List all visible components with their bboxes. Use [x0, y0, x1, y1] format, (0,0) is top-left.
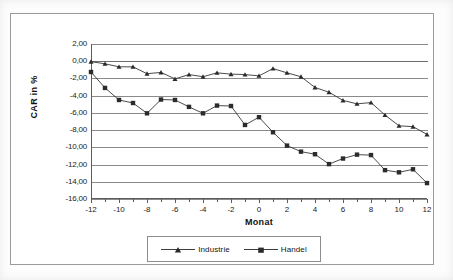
y-tick-label: -16,00 — [41, 195, 87, 203]
data-point-marker — [187, 72, 192, 76]
chart-legend: Industrie Handel — [147, 236, 321, 262]
x-tick-label: -8 — [135, 205, 159, 214]
y-tick-label: 0,00 — [41, 57, 87, 65]
data-point-marker — [215, 103, 219, 107]
data-point-marker — [383, 168, 387, 172]
data-point-marker — [369, 153, 373, 157]
data-point-marker — [145, 111, 149, 115]
data-point-marker — [355, 152, 359, 156]
chart-figure-frame: CAR in % 2,000,00-2,00-4,00-6,00-8,00-10… — [10, 13, 434, 265]
x-tick-label: -4 — [191, 205, 215, 214]
x-tick-label: -6 — [163, 205, 187, 214]
x-tick — [399, 199, 400, 203]
x-tick — [231, 199, 232, 203]
x-tick — [133, 199, 134, 202]
data-point-marker — [271, 130, 275, 134]
x-tick — [343, 199, 344, 203]
legend-entry-handel: Handel — [244, 245, 307, 254]
x-tick — [259, 199, 260, 203]
x-tick — [273, 199, 274, 202]
x-tick — [189, 199, 190, 202]
x-tick — [147, 199, 148, 203]
x-tick-label: -12 — [79, 205, 103, 214]
data-point-marker — [117, 98, 121, 102]
data-point-marker — [103, 86, 107, 90]
x-tick — [287, 199, 288, 203]
x-tick-label: -2 — [219, 205, 243, 214]
x-tick-label: 8 — [359, 205, 383, 214]
data-point-marker — [187, 105, 191, 109]
x-tick — [427, 199, 428, 203]
data-point-marker — [313, 152, 317, 156]
x-tick-label: 6 — [331, 205, 355, 214]
scanned-page: CAR in % 2,000,00-2,00-4,00-6,00-8,00-10… — [0, 0, 453, 280]
y-tick-label: -2,00 — [41, 74, 87, 82]
series-industrie — [89, 59, 430, 136]
data-point-marker — [159, 97, 163, 101]
x-tick — [175, 199, 176, 203]
data-point-marker — [243, 123, 247, 127]
data-point-marker — [341, 98, 346, 102]
x-tick — [161, 199, 162, 202]
y-tick-label: -12,00 — [41, 161, 87, 169]
series-handel — [89, 70, 429, 185]
x-tick — [91, 199, 92, 203]
square-marker-icon — [244, 245, 278, 254]
y-tick-label: -8,00 — [41, 126, 87, 134]
y-axis-tick-labels: 2,000,00-2,00-4,00-6,00-8,00-10,00-12,00… — [37, 44, 87, 199]
data-point-marker — [201, 111, 205, 115]
data-point-marker — [411, 167, 415, 171]
x-tick — [245, 199, 246, 202]
legend-label-industrie: Industrie — [198, 245, 230, 254]
y-tick-label: -4,00 — [41, 92, 87, 100]
data-point-marker — [271, 66, 276, 70]
data-point-marker — [425, 181, 429, 185]
y-tick-label: -14,00 — [41, 178, 87, 186]
triangle-marker-icon — [161, 245, 195, 254]
data-point-marker — [229, 104, 233, 108]
data-point-marker — [341, 156, 345, 160]
x-tick — [119, 199, 120, 203]
x-tick-label: 0 — [247, 205, 271, 214]
data-point-marker — [89, 70, 93, 74]
data-point-marker — [397, 170, 401, 174]
x-tick — [105, 199, 106, 202]
data-point-marker — [89, 59, 94, 63]
data-point-marker — [285, 143, 289, 147]
x-tick-label: 10 — [387, 205, 411, 214]
x-tick — [413, 199, 414, 202]
y-tick-label: 2,00 — [41, 40, 87, 48]
legend-label-handel: Handel — [281, 245, 307, 254]
data-point-marker — [131, 101, 135, 105]
x-tick — [329, 199, 330, 202]
x-tick-label: -10 — [107, 205, 131, 214]
y-tick-label: -10,00 — [41, 143, 87, 151]
series-line — [91, 62, 427, 135]
y-tick-label: -6,00 — [41, 109, 87, 117]
x-tick — [357, 199, 358, 202]
series-line — [91, 72, 427, 183]
x-tick — [203, 199, 204, 203]
legend-entry-industrie: Industrie — [161, 245, 230, 254]
data-point-marker — [425, 132, 430, 136]
x-tick — [217, 199, 218, 202]
x-tick — [301, 199, 302, 202]
data-point-marker — [327, 162, 331, 166]
data-point-marker — [173, 98, 177, 102]
data-series-layer — [91, 44, 427, 199]
x-tick — [315, 199, 316, 203]
data-point-marker — [257, 115, 261, 119]
x-tick — [385, 199, 386, 202]
x-tick — [371, 199, 372, 203]
x-tick-label: 2 — [275, 205, 299, 214]
x-tick-label: 4 — [303, 205, 327, 214]
data-point-marker — [299, 149, 303, 153]
x-tick-label: 12 — [415, 205, 439, 214]
x-axis-title: Monat — [91, 217, 427, 227]
